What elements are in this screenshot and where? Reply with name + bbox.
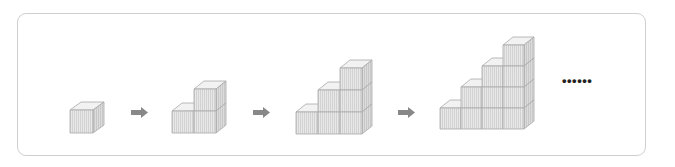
cube	[318, 112, 340, 134]
cube-front-face	[482, 87, 503, 108]
cube-front-face	[461, 108, 482, 129]
cube-front-face	[503, 66, 524, 87]
cube-figure-1	[70, 102, 104, 133]
cube-figure-3	[296, 60, 372, 134]
cube	[482, 87, 503, 108]
cube-front-face	[318, 112, 340, 134]
cube-front-face	[503, 45, 524, 66]
arrow-right-icon	[131, 107, 148, 118]
cube-front-face	[461, 87, 482, 108]
continuation-ellipsis: ••••••	[562, 74, 592, 87]
cube-front-face	[503, 108, 524, 129]
cube-front-face	[194, 111, 216, 133]
cube	[461, 108, 482, 129]
cube-front-face	[172, 111, 194, 133]
cube-front-face	[503, 87, 524, 108]
arrow-right-icon	[398, 107, 415, 118]
cube	[482, 108, 503, 129]
cube-front-face	[70, 110, 93, 133]
cube-front-face	[318, 90, 340, 112]
cube-front-face	[296, 112, 318, 134]
cube-front-face	[482, 66, 503, 87]
cube-front-face	[194, 89, 216, 111]
cube-front-face	[340, 90, 362, 112]
cube-front-face	[482, 108, 503, 129]
arrow-right-icon	[253, 107, 270, 118]
cube-figure-4	[440, 37, 534, 129]
cube-front-face	[340, 112, 362, 134]
cube-front-face	[440, 108, 461, 129]
cube	[70, 102, 104, 133]
cube-front-face	[340, 68, 362, 90]
cube-figure-2	[172, 81, 226, 133]
